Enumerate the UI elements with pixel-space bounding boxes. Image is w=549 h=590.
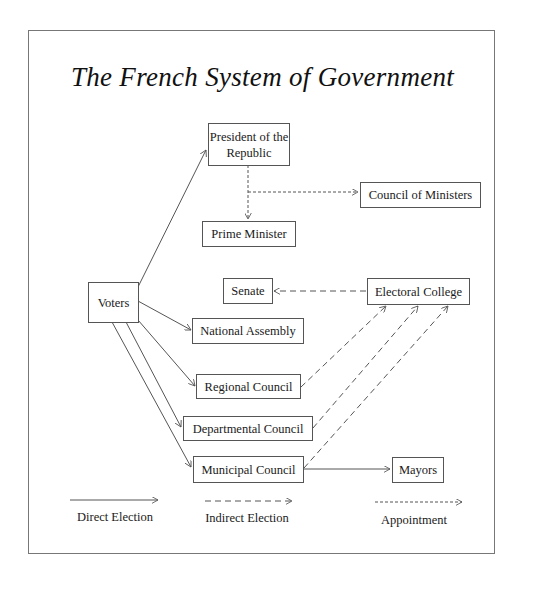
node-mayors: Mayors xyxy=(392,457,444,483)
node-senate: Senate xyxy=(223,278,273,304)
node-municipal-council: Municipal Council xyxy=(193,456,304,483)
node-prime-minister-label: Prime Minister xyxy=(211,226,286,242)
node-president-label: President of the Republic xyxy=(209,129,289,161)
node-regional-council-label: Regional Council xyxy=(205,379,293,395)
node-electoral-college: Electoral College xyxy=(367,278,470,305)
node-municipal-council-label: Municipal Council xyxy=(201,462,295,478)
legend-indirect-label: Indirect Election xyxy=(192,511,302,526)
edge-voters-regional-council xyxy=(138,320,195,386)
node-national-assembly-label: National Assembly xyxy=(200,323,295,339)
node-voters: Voters xyxy=(88,282,139,323)
edge-departmental-electoral-college xyxy=(313,306,418,428)
node-mayors-label: Mayors xyxy=(399,462,437,478)
edge-regional-electoral-college xyxy=(301,306,386,387)
node-voters-label: Voters xyxy=(98,295,130,311)
node-departmental-council: Departmental Council xyxy=(183,416,313,441)
node-president: President of the Republic xyxy=(208,123,290,166)
node-regional-council: Regional Council xyxy=(196,374,301,399)
node-departmental-council-label: Departmental Council xyxy=(193,421,304,437)
node-national-assembly: National Assembly xyxy=(192,318,304,344)
node-council-of-ministers-label: Council of Ministers xyxy=(369,187,472,203)
node-electoral-college-label: Electoral College xyxy=(375,284,462,300)
legend-direct-label: Direct Election xyxy=(60,510,170,525)
legend-appointment-label: Appointment xyxy=(364,513,464,528)
edge-municipal-electoral-college xyxy=(304,306,448,468)
node-prime-minister: Prime Minister xyxy=(202,221,296,247)
edge-voters-national-assembly xyxy=(138,301,191,330)
node-council-of-ministers: Council of Ministers xyxy=(360,182,481,208)
node-senate-label: Senate xyxy=(231,283,264,299)
edge-voters-president xyxy=(138,150,206,287)
edge-voters-municipal-council xyxy=(112,322,191,467)
